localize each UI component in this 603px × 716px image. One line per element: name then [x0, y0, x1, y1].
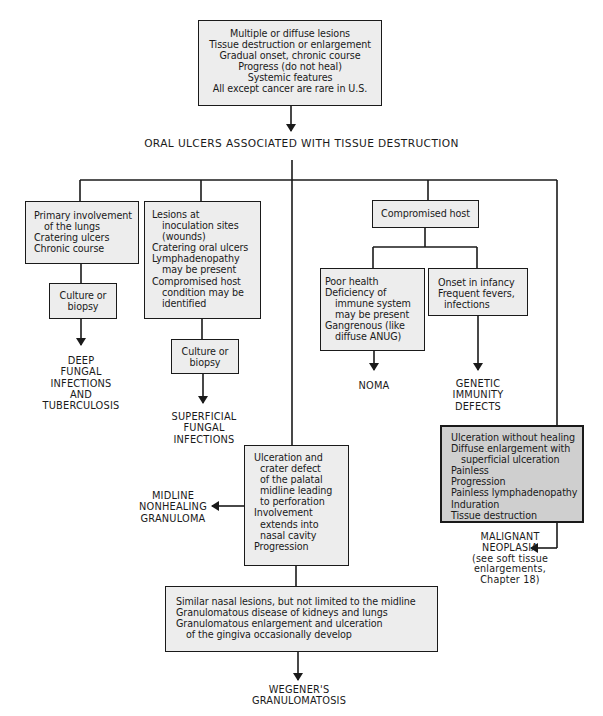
criterion: Cratering ulcers	[34, 232, 138, 243]
diagnosis-line: GRANULOMA	[132, 513, 214, 524]
deep-fungal-criteria-box: Primary involvement of the lungs Crateri…	[25, 201, 139, 264]
noma-criteria-box: Poor health Deficiency of immune system …	[320, 268, 425, 351]
criterion: of the palatal	[254, 474, 348, 485]
genetic-criteria-box: Onset in infancy Frequent fevers, infect…	[428, 268, 528, 316]
criterion: Similar nasal lesions, but not limited t…	[176, 596, 437, 607]
diagnosis-line: DEEP	[30, 355, 132, 366]
criterion: Painless lymphadenopathy	[451, 487, 582, 498]
criterion: may be present	[152, 264, 260, 275]
criterion: Tissue destruction or enlargement	[199, 39, 381, 50]
superficial-culture-biopsy-box: Culture or biopsy	[171, 339, 239, 374]
criterion: Diffuse enlargement with	[451, 443, 582, 454]
deep-culture-biopsy-box: Culture or biopsy	[49, 283, 117, 319]
criterion: identified	[152, 298, 260, 309]
criterion: Cratering oral ulcers	[152, 242, 260, 253]
diagnosis-line: IMMUNITY	[440, 389, 516, 400]
diagnosis-line: WEGENER'S	[238, 684, 360, 695]
criterion: condition may be	[152, 287, 260, 298]
test-label: biopsy	[172, 357, 238, 368]
criterion: midline leading	[254, 485, 348, 496]
diagnosis-line: DEFECTS	[440, 401, 516, 412]
criterion: Primary involvement	[34, 210, 138, 221]
criterion: Systemic features	[199, 72, 381, 83]
diagnosis-note: Chapter 18)	[470, 575, 550, 586]
criterion: Poor health	[325, 276, 424, 287]
diagnosis-line: TUBERCULOSIS	[30, 400, 132, 411]
criterion: diffuse ANUG)	[325, 331, 424, 342]
diagnosis-genetic-immunity-defects: GENETIC IMMUNITY DEFECTS	[440, 378, 516, 412]
diagnosis-deep-fungal-tb: DEEP FUNGAL INFECTIONS AND TUBERCULOSIS	[30, 355, 132, 411]
criterion: Deficiency of	[325, 287, 424, 298]
diagnosis-line: FUNGAL	[30, 366, 132, 377]
flowchart-canvas: Multiple or diffuse lesions Tissue destr…	[0, 0, 603, 716]
diagnosis-line: FUNGAL	[158, 422, 250, 433]
criterion: Painless	[451, 465, 582, 476]
criterion: crater defect	[254, 463, 348, 474]
criterion: Compromised host	[152, 276, 260, 287]
entry-criteria-box: Multiple or diffuse lesions Tissue destr…	[198, 20, 382, 106]
midline-criteria-box: Ulceration and crater defect of the pala…	[244, 445, 349, 566]
criterion: infections	[438, 299, 527, 310]
diagnosis-malignant-neoplasia: MALIGNANT NEOPLASIA (see soft tissue enl…	[470, 532, 550, 586]
criterion: All except cancer are rare in U.S.	[199, 83, 381, 94]
compromised-host-box: Compromised host	[372, 200, 479, 228]
superficial-fungal-criteria-box: Lesions at inoculation sites (wounds) Cr…	[144, 201, 261, 319]
diagnosis-line: GENETIC	[440, 378, 516, 389]
criterion: of the gingiva occasionally develop	[176, 629, 437, 640]
criterion: Involvement	[254, 507, 348, 518]
test-label: Culture or	[172, 346, 238, 357]
diagnosis-line: SUPERFICIAL	[158, 411, 250, 422]
criterion: of the lungs	[34, 221, 138, 232]
diagnosis-line: MIDLINE	[132, 490, 214, 501]
diagnosis-line: NOMA	[344, 380, 404, 391]
diagnosis-wegener-granulomatosis: WEGENER'S GRANULOMATOSIS	[238, 684, 360, 707]
wegener-criteria-box: Similar nasal lesions, but not limited t…	[165, 586, 438, 652]
criterion: Lymphadenopathy	[152, 253, 260, 264]
criterion: Granulomatous disease of kidneys and lun…	[176, 607, 437, 618]
criterion: inoculation sites	[152, 220, 260, 231]
criterion: Induration	[451, 499, 582, 510]
criterion: Frequent fevers,	[438, 288, 527, 299]
criterion: Progression	[254, 541, 348, 552]
criterion: immune system	[325, 298, 424, 309]
criterion: Granulomatous enlargement and ulceration	[176, 618, 437, 629]
diagnosis-line: GRANULOMATOSIS	[238, 695, 360, 706]
criterion: (wounds)	[152, 231, 260, 242]
criterion: Lesions at	[152, 209, 260, 220]
criterion: nasal cavity	[254, 530, 348, 541]
criterion: Chronic course	[34, 243, 138, 254]
diagnosis-line: NEOPLASIA	[470, 543, 550, 554]
criterion: Ulceration and	[254, 452, 348, 463]
diagnosis-noma: NOMA	[344, 380, 404, 391]
diagnosis-superficial-fungal: SUPERFICIAL FUNGAL INFECTIONS	[158, 411, 250, 445]
test-label: Culture or	[50, 290, 116, 301]
diagnosis-line: AND	[30, 389, 132, 400]
diagnosis-line: INFECTIONS	[158, 434, 250, 445]
diagram-title: ORAL ULCERS ASSOCIATED WITH TISSUE DESTR…	[0, 138, 603, 149]
criterion: to perforation	[254, 496, 348, 507]
criterion: Onset in infancy	[438, 277, 527, 288]
diagnosis-line: NONHEALING	[132, 501, 214, 512]
criterion: Tissue destruction	[451, 510, 582, 521]
criterion: may be present	[325, 309, 424, 320]
diagnosis-midline-nonhealing-granuloma: MIDLINE NONHEALING GRANULOMA	[132, 490, 214, 524]
criterion: extends into	[254, 519, 348, 530]
compromised-host-label: Compromised host	[373, 208, 478, 219]
test-label: biopsy	[50, 301, 116, 312]
criterion: Gangrenous (like	[325, 320, 424, 331]
criterion: Progress (do not heal)	[199, 61, 381, 72]
diagnosis-line: INFECTIONS	[30, 378, 132, 389]
criterion: superficial ulceration	[451, 454, 582, 465]
malignant-criteria-box: Ulceration without healing Diffuse enlar…	[440, 425, 584, 523]
criterion: Ulceration without healing	[451, 432, 582, 443]
criterion: Multiple or diffuse lesions	[199, 28, 381, 39]
criterion: Progression	[451, 476, 582, 487]
criterion: Gradual onset, chronic course	[199, 50, 381, 61]
